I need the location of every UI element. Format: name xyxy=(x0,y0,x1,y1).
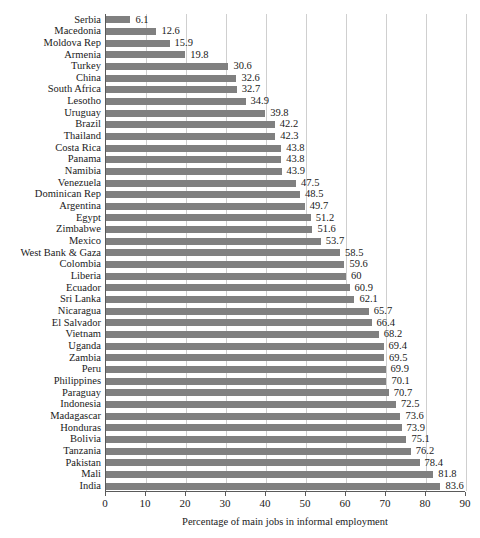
bar xyxy=(106,63,228,70)
bar-value-label: 78.4 xyxy=(425,458,443,469)
bar-row: 43.9 xyxy=(106,166,465,178)
bar-value-label: 39.8 xyxy=(270,108,288,119)
x-tick-label: 60 xyxy=(340,497,351,510)
bar xyxy=(106,16,130,23)
bar xyxy=(106,389,389,396)
bar-row: 51.2 xyxy=(106,212,465,224)
bar xyxy=(106,214,311,221)
bar xyxy=(106,28,156,35)
x-tick-label: 50 xyxy=(300,497,311,510)
bar xyxy=(106,354,384,361)
bar xyxy=(106,75,236,82)
x-tickmark xyxy=(305,492,306,496)
y-axis-label: Dominican Rep xyxy=(35,189,101,201)
y-axis-label: Uganda xyxy=(68,340,101,352)
bar-value-label: 32.7 xyxy=(242,84,260,95)
y-axis-label: China xyxy=(76,72,101,84)
bar-row: 78.4 xyxy=(106,457,465,469)
bar-value-label: 47.5 xyxy=(301,178,319,189)
bar xyxy=(106,424,402,431)
bar-row: 47.5 xyxy=(106,177,465,189)
y-axis-label: Venezuela xyxy=(58,177,101,189)
bar xyxy=(106,133,275,140)
bar-value-label: 48.5 xyxy=(305,189,323,200)
bar-value-label: 76.2 xyxy=(416,446,434,457)
bar-row: 70.1 xyxy=(106,375,465,387)
bar-row: 69.5 xyxy=(106,352,465,364)
x-tick-label: 0 xyxy=(102,497,108,510)
bar-value-label: 70.1 xyxy=(391,376,409,387)
bar-row: 76.2 xyxy=(106,445,465,457)
y-axis-label: Colombia xyxy=(60,259,101,271)
bar xyxy=(106,168,282,175)
bar-row: 75.1 xyxy=(106,434,465,446)
bar-value-label: 59.6 xyxy=(349,259,367,270)
bar-row: 73.6 xyxy=(106,410,465,422)
y-axis-label: Liberia xyxy=(71,270,101,282)
x-tickmark xyxy=(345,492,346,496)
bar-row: 68.2 xyxy=(106,329,465,341)
bar-row: 30.6 xyxy=(106,61,465,73)
y-axis-label: Pakistan xyxy=(65,457,101,469)
bar xyxy=(106,180,296,187)
x-tickmark xyxy=(145,492,146,496)
x-tick-label: 20 xyxy=(180,497,191,510)
bar-row: 19.8 xyxy=(106,49,465,61)
y-axis-label: Indonesia xyxy=(60,399,101,411)
y-axis-label: Armenia xyxy=(64,49,101,61)
y-axis-label: Brazil xyxy=(75,119,101,131)
bar-value-label: 42.2 xyxy=(280,119,298,130)
bar-value-label: 69.5 xyxy=(389,353,407,364)
y-axis-label: Sri Lanka xyxy=(60,294,101,306)
y-axis-label: West Bank & Gaza xyxy=(20,247,101,259)
bar-value-label: 66.4 xyxy=(377,318,395,329)
bar-value-label: 62.1 xyxy=(359,294,377,305)
bar-row: 15.9 xyxy=(106,37,465,49)
x-tickmark xyxy=(265,492,266,496)
bar-row: 51.6 xyxy=(106,224,465,236)
bar xyxy=(106,51,185,58)
y-axis-label: Serbia xyxy=(74,14,101,26)
y-axis-label: Macedonia xyxy=(54,26,101,38)
y-axis-label: Moldova Rep xyxy=(44,37,101,49)
bar-row: 72.5 xyxy=(106,399,465,411)
bar xyxy=(106,331,379,338)
bar-value-label: 58.5 xyxy=(345,248,363,259)
x-axis-title: Percentage of main jobs in informal empl… xyxy=(105,516,465,527)
y-axis-label: Bolivia xyxy=(70,434,101,446)
bar xyxy=(106,366,386,373)
bar-value-label: 49.7 xyxy=(310,201,328,212)
bar-row: 69.9 xyxy=(106,364,465,376)
x-tick-label: 10 xyxy=(140,497,151,510)
bar-row: 62.1 xyxy=(106,294,465,306)
y-axis-category-labels: SerbiaMacedoniaMoldova RepArmeniaTurkeyC… xyxy=(0,14,101,492)
y-axis-label: Namibia xyxy=(65,166,101,178)
bar-value-label: 43.8 xyxy=(286,154,304,165)
bar-row: 34.9 xyxy=(106,96,465,108)
bar-rows: 6.112.615.919.830.632.632.734.939.842.24… xyxy=(106,14,465,491)
bar-row: 43.8 xyxy=(106,154,465,166)
y-axis-label: Paraguay xyxy=(62,387,101,399)
bar-value-label: 12.6 xyxy=(161,26,179,37)
x-tick-label: 90 xyxy=(460,497,471,510)
bar xyxy=(106,378,386,385)
bar xyxy=(106,238,321,245)
bar-row: 53.7 xyxy=(106,236,465,248)
bar-value-label: 69.4 xyxy=(389,341,407,352)
bar-value-label: 70.7 xyxy=(394,388,412,399)
bar-value-label: 60.9 xyxy=(355,283,373,294)
bar-value-label: 51.2 xyxy=(316,213,334,224)
y-axis-label: Thailand xyxy=(64,131,101,143)
bar xyxy=(106,86,237,93)
bar-row: 6.1 xyxy=(106,14,465,26)
bar-value-label: 68.2 xyxy=(384,329,402,340)
y-axis-label: Vietnam xyxy=(65,329,101,341)
bar-row: 83.6 xyxy=(106,480,465,492)
bar-value-label: 65.7 xyxy=(374,306,392,317)
bar-row: 70.7 xyxy=(106,387,465,399)
y-axis-label: South Africa xyxy=(48,84,101,96)
bar-chart: SerbiaMacedoniaMoldova RepArmeniaTurkeyC… xyxy=(0,0,480,538)
bar-value-label: 73.6 xyxy=(405,411,423,422)
x-tick-label: 70 xyxy=(380,497,391,510)
y-axis-label: Zimbabwe xyxy=(56,224,101,236)
